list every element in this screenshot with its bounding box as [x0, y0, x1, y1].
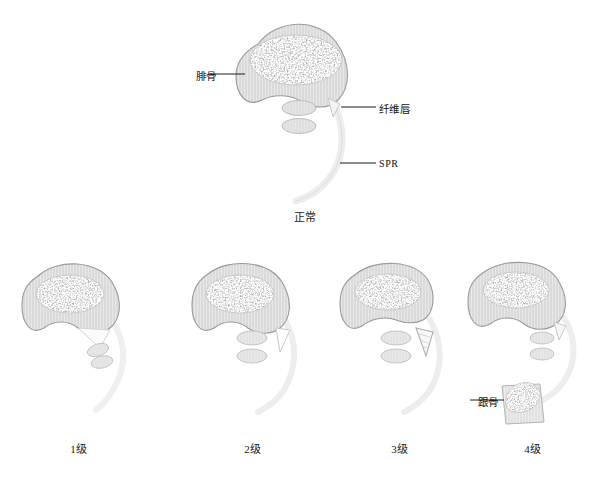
- peroneal-tendon-brevis: [530, 332, 554, 344]
- label-spr: SPR: [379, 158, 399, 169]
- peroneal-tendon-brevis: [237, 331, 267, 345]
- figure-canvas: 腓骨 纤维唇 SPR 正常: [0, 0, 608, 480]
- label-fibrous-lip: 纤维唇: [379, 101, 410, 116]
- grade-1-panel: [14, 258, 164, 428]
- grade-1-diagram: [14, 258, 164, 428]
- caption-grade-2: 2级: [198, 440, 308, 456]
- caption-grade-3: 3级: [345, 440, 455, 456]
- caption-grade-1: 1级: [24, 440, 134, 456]
- spr-band: [536, 318, 574, 404]
- peroneal-tendon-longus: [530, 348, 554, 360]
- peroneal-tendon-brevis: [381, 331, 411, 345]
- caption-grade-4: 4级: [478, 440, 588, 456]
- fibrous-lip: [554, 322, 566, 340]
- label-calcaneus: 跟骨: [478, 394, 499, 409]
- peroneal-tendon-longus: [381, 349, 411, 363]
- peroneal-tendon-brevis: [282, 101, 316, 116]
- grade-4-diagram: [460, 258, 608, 436]
- fibrous-lip-elevated: [276, 328, 290, 352]
- caption-normal: 正常: [255, 208, 355, 224]
- grade-2-diagram: [180, 258, 330, 428]
- peroneal-tendon-longus: [282, 119, 316, 134]
- grade-2-panel: [180, 258, 330, 428]
- label-fibula: 腓骨: [196, 68, 217, 83]
- peroneal-tendon-longus: [237, 349, 267, 363]
- grade-4-panel: [460, 258, 608, 436]
